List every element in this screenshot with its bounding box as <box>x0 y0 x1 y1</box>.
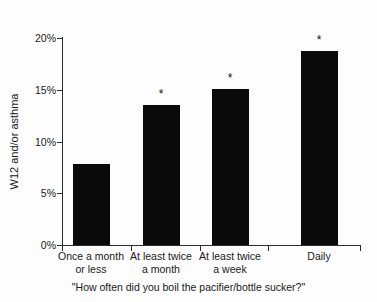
x-axis-title: "How often did you boil the pacifier/bot… <box>0 281 377 293</box>
y-tick-label-5: 5% <box>10 188 56 198</box>
y-tick-label-20: 20% <box>10 33 56 43</box>
y-tick-mark-20 <box>57 38 62 39</box>
y-tick-label-0: 0% <box>10 240 56 250</box>
bar-at-least-twice-a-month[interactable] <box>143 105 180 245</box>
significance-asterisk-at-least-twice-a-week: * <box>210 74 250 82</box>
y-tick-mark-10 <box>57 142 62 143</box>
y-tick-mark-5 <box>57 193 62 194</box>
x-category-label-at-least-twice-a-week: At least twice a week <box>182 250 278 275</box>
x-axis-line <box>62 245 361 246</box>
y-tick-label-15: 15% <box>10 85 56 95</box>
bar-at-least-twice-a-week[interactable] <box>212 89 249 245</box>
y-axis-line <box>62 37 63 246</box>
bar-once-a-month-or-less[interactable] <box>73 164 110 245</box>
bar-chart: W12 and/or asthma 20% 15% 10% 5% 0% * * … <box>0 0 377 302</box>
y-tick-label-10: 10% <box>10 137 56 147</box>
y-tick-mark-15 <box>57 90 62 91</box>
significance-asterisk-daily: * <box>299 36 339 44</box>
bar-daily[interactable] <box>301 51 338 245</box>
significance-asterisk-at-least-twice-a-month: * <box>141 90 181 98</box>
x-category-label-daily: Daily <box>271 250 367 263</box>
